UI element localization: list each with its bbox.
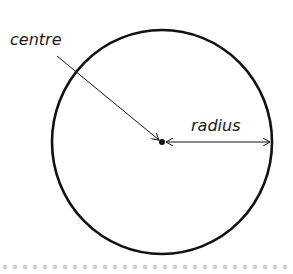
radius-label: radius <box>191 116 240 135</box>
dotted-separator <box>3 265 288 270</box>
centre-label: centre <box>10 30 61 49</box>
centre-pointer-arrow <box>57 56 159 140</box>
centre-point <box>159 139 165 145</box>
